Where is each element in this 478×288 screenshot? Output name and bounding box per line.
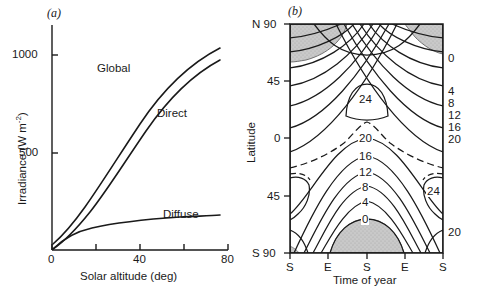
panel-b-right-label-16: 16 — [448, 121, 461, 133]
panel-a-ylabel: Irradiance (W m-2) — [14, 112, 28, 205]
curve-label-direct: Direct — [157, 107, 187, 119]
panel-a-ytick-1000: 1000 — [12, 48, 38, 60]
panel-b-right-label-20: 20 — [448, 133, 461, 145]
panel-a-x-ticks — [52, 244, 228, 250]
panel-a-ylabel-tail: ) — [16, 112, 28, 116]
figure-container: (a) — [0, 0, 478, 288]
panel-b-x-ticks — [290, 253, 443, 259]
panel-b-contour-label-8: 8 — [361, 182, 369, 193]
panel-a-xlabel: Solar altitude (deg) — [80, 270, 177, 282]
panel-b-daylength: (b) — [240, 0, 478, 288]
panel-a-y-ticks — [52, 55, 58, 153]
panel-b-contour-label-4: 4 — [361, 197, 369, 208]
panel-b-contour-label-0: 0 — [361, 214, 369, 225]
panel-b-ytick-n90: N 90 — [252, 18, 276, 30]
panel-a-plot — [0, 0, 240, 288]
panel-b-right-label-20-lower: 20 — [448, 226, 461, 238]
panel-b-ytick-0: 0 — [274, 132, 280, 144]
panel-b-ylabel: Latitude — [245, 122, 257, 163]
panel-b-right-label-0: 0 — [448, 52, 454, 64]
panel-b-plot — [240, 0, 478, 288]
panel-b-xtick-s2: S — [363, 261, 371, 273]
panel-b-right-label-4: 4 — [448, 85, 454, 97]
panel-b-right-label-8: 8 — [448, 97, 454, 109]
panel-b-y-ticks — [284, 24, 290, 253]
panel-b-xtick-e2: E — [401, 261, 409, 273]
panel-a-irradiance: (a) — [0, 0, 240, 288]
curve-label-diffuse: Diffuse — [163, 208, 199, 220]
panel-b-contour-label-20: 20 — [358, 133, 373, 144]
panel-b-xlabel: Time of year — [333, 274, 396, 286]
panel-a-xtick-80: 80 — [221, 253, 234, 265]
panel-b-right-label-12: 12 — [448, 109, 461, 121]
panel-b-ytick-45s: 45 — [267, 190, 280, 202]
curve-diffuse — [53, 215, 220, 249]
panel-b-ytick-45n: 45 — [267, 75, 280, 87]
panel-b-contour-label-16: 16 — [358, 151, 373, 162]
panel-a-xtick-0: 0 — [48, 253, 54, 265]
panel-a-xtick-40: 40 — [133, 253, 146, 265]
curve-label-global: Global — [97, 62, 130, 74]
panel-b-xtick-s3: S — [439, 261, 447, 273]
panel-b-contour-label-12: 12 — [358, 167, 373, 178]
panel-b-xtick-e1: E — [324, 261, 332, 273]
panel-b-xtick-s1: S — [286, 261, 294, 273]
panel-a-ylabel-main: Irradiance (W m — [16, 123, 28, 205]
panel-b-contour-label-24: 24 — [358, 94, 373, 105]
panel-a-ylabel-superscript: -2 — [14, 116, 23, 123]
panel-b-label-24-right: 24 — [426, 186, 441, 197]
panel-b-ytick-s90: S 90 — [252, 247, 276, 259]
